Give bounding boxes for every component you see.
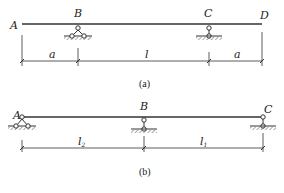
roller-support-icon [196,26,222,40]
label-a-C: C [204,7,213,20]
label-a-A: A [9,19,18,32]
caption-a: (a) [139,78,150,90]
label-b-B: B [139,100,148,113]
beam-diagrams: A B C D [0,0,284,193]
label-b-C: C [264,103,273,116]
figure-b: A B C [8,100,276,178]
roller-support-icon [131,118,157,133]
dim-l2: l2 [78,135,86,148]
dim-a-left: a [49,48,56,61]
dim-l1: l1 [200,135,207,148]
dim-l: l [145,48,149,61]
dim-a-right: a [234,48,241,61]
figure-a: A B C D [9,7,269,90]
caption-b: (b) [139,166,151,178]
dimension-line-a [20,59,264,63]
label-a-B: B [73,7,82,20]
dimension-line-b [20,146,265,150]
label-a-D: D [259,9,269,22]
label-b-A: A [12,109,21,122]
pin-support-icon [64,26,92,40]
